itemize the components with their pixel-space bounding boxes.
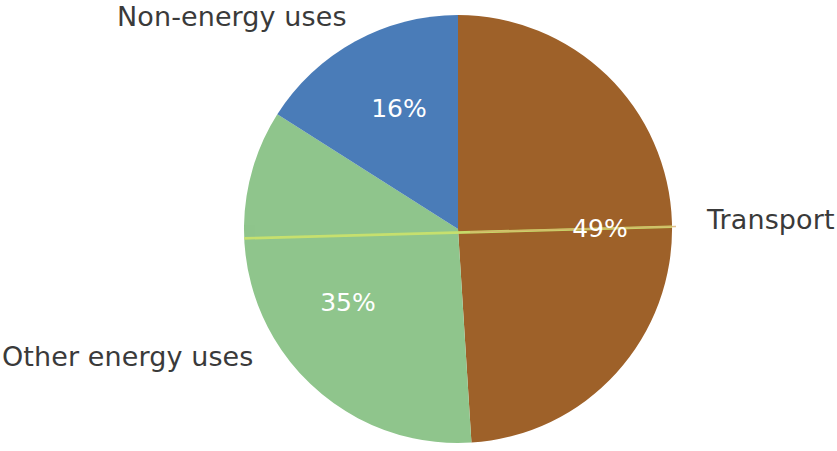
pie-percent-other-energy-uses: 35% — [317, 288, 379, 317]
pie-label-non-energy-uses: Non-energy uses — [117, 2, 347, 32]
pie-percent-non-energy-uses: 16% — [368, 94, 430, 123]
pie-percent-transport: 49% — [569, 214, 631, 243]
pie-chart-figure: Non-energy uses Other energy uses Transp… — [0, 0, 837, 451]
pie-label-transport: Transport — [707, 205, 835, 235]
pie-label-other-energy-uses: Other energy uses — [2, 342, 253, 372]
